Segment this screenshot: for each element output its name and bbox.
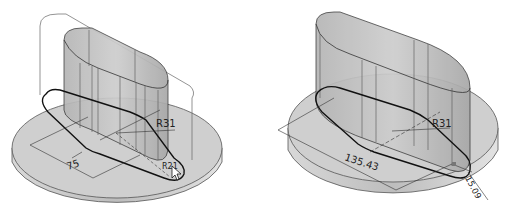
cad-canvas[interactable]: 75 R31 R21 <box>0 0 512 220</box>
dim-15-09[interactable]: 15.09 <box>463 174 483 200</box>
dim-r31-left[interactable]: R31 <box>156 118 176 129</box>
left-view: 75 R31 R21 <box>12 14 222 202</box>
cad-viewport[interactable]: 75 R31 R21 <box>0 0 512 220</box>
dim-r31-right[interactable]: R31 <box>432 118 452 129</box>
sketch-point[interactable] <box>452 162 456 166</box>
right-view: 135.43 R31 15.09 <box>278 12 498 200</box>
